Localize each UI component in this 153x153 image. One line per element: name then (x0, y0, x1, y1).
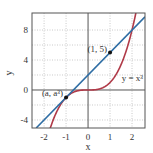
tick-labels: -2-1012-4048 (21, 25, 135, 142)
x-axis-label: x (86, 141, 91, 152)
y-tick-label: 4 (24, 55, 29, 65)
tangent-line (36, 17, 145, 128)
curve-label: y = x³ (122, 73, 144, 83)
x-tick-label: -2 (40, 132, 48, 142)
chart-svg: -2-1012-4048 (1, 5)(a, a³)y = x³ x y (0, 0, 153, 153)
data-point (64, 95, 68, 99)
data-point (108, 51, 112, 55)
x-tick-label: 2 (130, 132, 135, 142)
y-axis-label: y (3, 71, 14, 76)
y-tick-label: 8 (24, 25, 29, 35)
x-tick-label: -1 (62, 132, 70, 142)
point-label-1-5: (1, 5) (88, 44, 108, 54)
x-tick-label: 1 (108, 132, 113, 142)
zero-axes (32, 13, 145, 128)
y-tick-label: 0 (24, 85, 29, 95)
y-tick-label: -4 (21, 115, 29, 125)
series-group (36, 11, 145, 130)
chart-container: -2-1012-4048 (1, 5)(a, a³)y = x³ x y (0, 0, 153, 153)
point-label-a-a3: (a, a³) (42, 88, 63, 98)
